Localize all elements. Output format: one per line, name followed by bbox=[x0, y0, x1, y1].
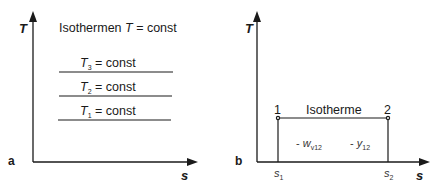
subscript: v12 bbox=[311, 144, 322, 151]
title-prefix: Isothermen bbox=[59, 21, 125, 35]
isotherm-label-t3: T3 = const bbox=[80, 57, 136, 71]
panel-a-y-axis-label: T bbox=[19, 22, 27, 35]
var: T bbox=[80, 104, 88, 118]
panel-a-label: a bbox=[8, 155, 15, 167]
text: = const bbox=[92, 80, 136, 94]
isotherm-label-t2: T2 = const bbox=[80, 81, 136, 95]
title-suffix: = const bbox=[133, 21, 177, 35]
title-var: T bbox=[125, 21, 133, 35]
panel-a-x-arrow-icon bbox=[187, 158, 198, 166]
subscript: 12 bbox=[362, 144, 370, 151]
panel-b-y-arrow-icon bbox=[253, 11, 261, 22]
subscript: 1 bbox=[280, 174, 284, 181]
panel-a-title: Isothermen T = const bbox=[59, 22, 177, 35]
text: = const bbox=[92, 104, 136, 118]
prefix: - bbox=[350, 137, 357, 149]
panel-a-x-axis-label: s bbox=[181, 169, 188, 182]
state-point-1-label: 1 bbox=[274, 104, 281, 117]
isotherm-label-t1: T1 = const bbox=[80, 105, 136, 119]
panel-b-x-arrow-icon bbox=[419, 158, 430, 166]
var: T bbox=[80, 80, 88, 94]
subscript: 2 bbox=[390, 174, 394, 181]
work-label: - wv12 bbox=[296, 138, 322, 151]
panel-b-axes bbox=[253, 11, 430, 166]
panel-b-area bbox=[276, 116, 389, 162]
var: w bbox=[303, 137, 311, 149]
s2-tick-label: s2 bbox=[384, 168, 393, 181]
y-label: - y12 bbox=[350, 138, 370, 151]
panel-b-label: b bbox=[235, 155, 242, 167]
text: = const bbox=[92, 56, 136, 70]
panel-b-x-axis-label: s bbox=[416, 169, 423, 182]
panel-b-y-axis-label: T bbox=[245, 22, 253, 35]
panel-a-y-arrow-icon bbox=[29, 11, 37, 22]
var: T bbox=[80, 56, 88, 70]
isotherm-label: Isotherme bbox=[306, 104, 362, 117]
s1-tick-label: s1 bbox=[274, 168, 283, 181]
prefix: - bbox=[296, 137, 303, 149]
state-point-2-label: 2 bbox=[384, 104, 391, 117]
